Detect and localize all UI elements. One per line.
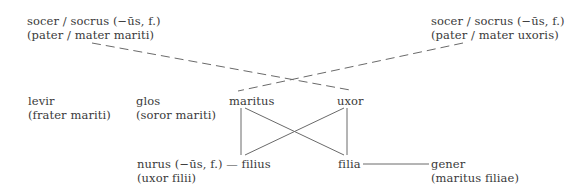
node-gloss: (soror mariti)	[136, 108, 216, 122]
node-label: levir	[28, 94, 111, 108]
node-label: socer / socrus (−ūs, f.)	[27, 14, 161, 28]
node-label: filia	[338, 157, 361, 171]
node-glos: glos (soror mariti)	[136, 94, 216, 122]
node-label: glos	[136, 94, 216, 108]
node-socer-husband: socer / socrus (−ūs, f.) (pater / mater …	[27, 14, 161, 42]
node-label: uxor	[337, 94, 364, 108]
node-maritus: maritus	[229, 94, 275, 108]
edge-socer-husband-to-uxor	[92, 43, 350, 90]
node-levir: levir (frater mariti)	[28, 94, 111, 122]
node-gloss: (pater / mater uxoris)	[431, 28, 565, 42]
node-gloss: (pater / mater mariti)	[27, 28, 161, 42]
node-gloss: (frater mariti)	[28, 108, 111, 122]
node-socer-wife: socer / socrus (−ūs, f.) (pater / mater …	[431, 14, 565, 42]
node-gener: gener (maritus filiae)	[431, 157, 519, 185]
node-gloss: (maritus filiae)	[431, 171, 519, 185]
edge-socer-wife-to-maritus	[238, 43, 463, 91]
node-label: maritus	[229, 94, 275, 108]
node-gloss: (uxor filii)	[137, 171, 271, 185]
node-label: nurus (−ūs, f.) — filius	[137, 157, 271, 171]
node-label: gener	[431, 157, 519, 171]
node-nurus-filius: nurus (−ūs, f.) — filius (uxor filii)	[137, 157, 271, 185]
node-uxor: uxor	[337, 94, 364, 108]
node-filia: filia	[338, 157, 361, 171]
node-label: socer / socrus (−ūs, f.)	[431, 14, 565, 28]
